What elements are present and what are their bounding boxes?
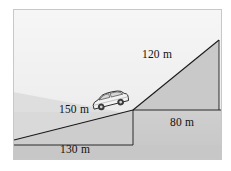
- ground-strip: [13, 145, 222, 160]
- downhill-length-label: 150 m: [59, 103, 89, 115]
- diagram-figure: 150 m 130 m 120 m 80 m: [0, 0, 231, 171]
- uphill-run-label: 80 m: [170, 116, 194, 128]
- horizontal-run-label: 130 m: [60, 143, 90, 155]
- inclined-road-diagram: 150 m 130 m 120 m 80 m: [0, 0, 231, 171]
- uphill-length-label: 120 m: [142, 48, 172, 60]
